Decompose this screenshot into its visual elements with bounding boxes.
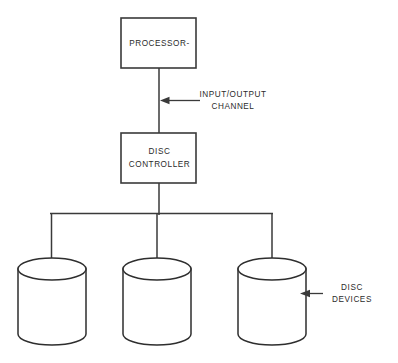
disc-device-1[interactable] (18, 258, 86, 345)
input-output-channel-label-line2: CHANNEL (212, 102, 255, 111)
input-output-channel-arrow-icon (160, 97, 170, 104)
input-output-channel-label-line1: INPUT/OUTPUT (199, 90, 266, 99)
disc-controller-label-line1: DISC (149, 147, 171, 156)
disc-devices-label-line2: DEVICES (332, 295, 372, 304)
disc-devices-label-line1: DISC (341, 283, 363, 292)
processor-label: PROCESSOR- (129, 39, 190, 48)
disc-device-3-top (238, 258, 306, 280)
disc-controller-box (121, 133, 196, 183)
diagram-canvas: PROCESSOR- DISC CONTROLLER INPUT/OUTPUT … (0, 0, 398, 363)
disc-device-3[interactable] (238, 258, 306, 345)
disc-device-2[interactable] (123, 258, 191, 345)
callout-disc-devices: DISC DEVICES (300, 283, 372, 304)
node-processor[interactable]: PROCESSOR- (121, 18, 196, 68)
disc-device-2-top (123, 258, 191, 280)
disc-subsystem-diagram: PROCESSOR- DISC CONTROLLER INPUT/OUTPUT … (0, 0, 398, 363)
callout-input-output-channel: INPUT/OUTPUT CHANNEL (160, 90, 267, 111)
disc-device-1-top (18, 258, 86, 280)
disc-controller-label-line2: CONTROLLER (129, 160, 190, 169)
node-disc-controller[interactable]: DISC CONTROLLER (121, 133, 196, 183)
